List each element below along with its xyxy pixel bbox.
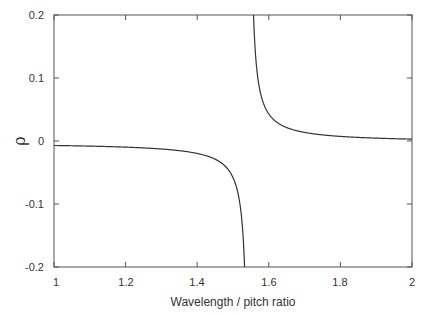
curve-branch [254, 15, 412, 139]
curve-branch [54, 145, 245, 267]
x-axis-title: Wavelength / pitch ratio [171, 295, 296, 309]
xtick-label-1: 1 [53, 276, 59, 288]
xtick-label-1.8: 1.8 [332, 276, 347, 288]
plot-area [54, 15, 412, 267]
ytick-label-neg0.1: -0.1 [25, 198, 44, 210]
plot-frame [54, 15, 412, 267]
data-series-rho [54, 15, 412, 267]
ytick-label-0.1: 0.1 [29, 72, 44, 84]
ytick-label-neg0.2: -0.2 [25, 261, 44, 273]
y-axis-title: ρ [10, 136, 29, 145]
xtick-label-1.2: 1.2 [118, 276, 133, 288]
xtick-label-1.6: 1.6 [261, 276, 276, 288]
chart: 0.2 0.1 0 -0.1 -0.2 1 1.2 1.4 1.6 1.8 2 … [0, 0, 428, 315]
ytick-label-0: 0 [38, 135, 44, 147]
axis-ticks [54, 15, 412, 267]
xtick-label-1.4: 1.4 [189, 276, 204, 288]
ytick-label-0.2: 0.2 [29, 9, 44, 21]
xtick-label-2: 2 [409, 276, 415, 288]
